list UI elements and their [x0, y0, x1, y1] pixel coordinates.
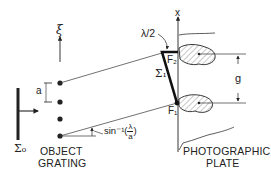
- angle-leader: [94, 131, 103, 134]
- object-grating-label-1: OBJECT: [40, 146, 83, 157]
- sigma0-label: Σ₀: [14, 143, 26, 154]
- angle-suffix: ): [133, 125, 136, 136]
- f2-label: F₂: [167, 55, 177, 65]
- ray-upper: [60, 53, 162, 83]
- image-blob-lower: [179, 95, 213, 113]
- separation-label: g: [235, 73, 241, 84]
- object-grating-label-2: GRATING: [38, 158, 86, 169]
- grating-spacing-label: a: [36, 86, 42, 96]
- image-blob-upper: [179, 45, 215, 65]
- plate-label-2: PLATE: [206, 158, 239, 169]
- lambda-half-label: λ/2: [141, 28, 155, 39]
- grating-dot: [57, 116, 62, 121]
- plate-label-1: PHOTOGRAPHIC: [183, 146, 270, 157]
- sigma1-label: Σ₁: [155, 68, 167, 79]
- xi-label: ξ: [56, 24, 63, 36]
- grating-dot: [57, 99, 62, 104]
- f1-label: F₁: [168, 106, 177, 116]
- angle-label: sin⁻¹(λa): [104, 122, 137, 141]
- plate-edge-upper: [179, 33, 215, 35]
- x-axis-label: x: [175, 8, 180, 18]
- angle-prefix: sin⁻¹(: [104, 125, 127, 136]
- lambda-half-leader: [158, 34, 167, 49]
